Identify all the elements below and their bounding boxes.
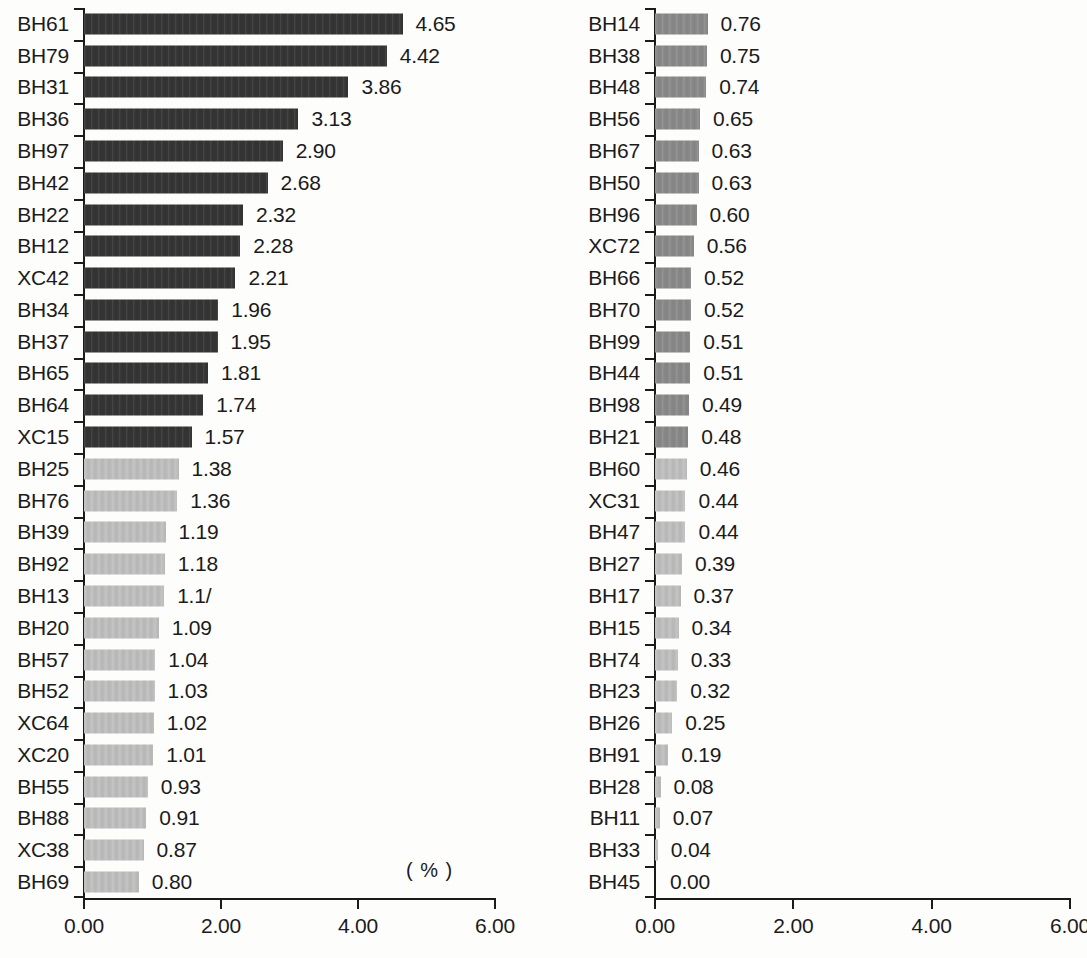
bar-category-label: BH99 [588, 330, 640, 354]
x-axis-tick [654, 898, 656, 909]
bar [84, 649, 155, 670]
x-axis-tick-label: 0.00 [64, 914, 104, 938]
bar-row: BH960.60 [655, 199, 1070, 231]
bar [84, 331, 218, 352]
bar-category-label: BH44 [588, 361, 640, 385]
bar-row: BH440.51 [655, 358, 1070, 390]
bar-row: XC310.44 [655, 485, 1070, 517]
bar-category-label: BH37 [17, 330, 69, 354]
x-axis-tick [792, 898, 794, 909]
bar-row: BH740.33 [655, 644, 1070, 676]
bar [84, 871, 139, 892]
bar [655, 172, 699, 193]
bar-category-label: BH20 [17, 616, 69, 640]
bar-row: XC720.56 [655, 230, 1070, 262]
bar [655, 268, 691, 289]
bar [84, 141, 283, 162]
x-axis-tick [220, 898, 222, 909]
bar-row: BH641.74 [84, 389, 495, 421]
bar [655, 109, 700, 130]
bar [84, 713, 154, 734]
x-axis-tick [1069, 898, 1071, 909]
bar [84, 45, 387, 66]
bar-category-label: BH67 [588, 139, 640, 163]
bar-value-label: 1.1/ [177, 584, 211, 608]
left-unit-label: ( % ) [406, 859, 453, 882]
bar-category-label: BH42 [17, 171, 69, 195]
bar [655, 681, 677, 702]
x-axis-tick-label: 4.00 [912, 914, 952, 938]
bar-value-label: 3.13 [311, 107, 351, 131]
bar [655, 840, 658, 861]
bar-value-label: 0.75 [720, 44, 760, 68]
bar-category-label: XC15 [17, 425, 69, 449]
bar [84, 554, 165, 575]
right-plot-area: BH140.76BH380.75BH480.74BH560.65BH670.63… [655, 8, 1070, 898]
bar [655, 236, 694, 257]
bar-value-label: 0.87 [157, 838, 197, 862]
bar-value-label: 0.07 [673, 806, 713, 830]
bar-row: BH980.49 [655, 389, 1070, 421]
bar-row: XC201.01 [84, 739, 495, 771]
bar [84, 268, 235, 289]
x-axis-tick [494, 898, 496, 909]
bar-value-label: 0.33 [691, 648, 731, 672]
bar-value-label: 1.19 [179, 520, 219, 544]
bar-row: BH330.04 [655, 834, 1070, 866]
bar-row: BH313.86 [84, 72, 495, 104]
bar-value-label: 0.51 [703, 330, 743, 354]
bar-category-label: BH66 [588, 266, 640, 290]
bar-row: BH210.48 [655, 421, 1070, 453]
bar-category-label: BH39 [17, 520, 69, 544]
bar-value-label: 2.68 [281, 171, 321, 195]
bar-row: BH761.36 [84, 485, 495, 517]
bar [655, 776, 661, 797]
bar [655, 331, 690, 352]
bar-row: BH550.93 [84, 771, 495, 803]
bar [655, 617, 679, 638]
bar-value-label: 2.21 [248, 266, 288, 290]
bar-value-label: 4.65 [416, 12, 456, 36]
bar-value-label: 1.01 [166, 743, 206, 767]
bar-value-label: 0.08 [674, 775, 714, 799]
x-axis-tick-label: 2.00 [201, 914, 241, 938]
bar-category-label: BH65 [17, 361, 69, 385]
bar-value-label: 1.57 [205, 425, 245, 449]
bar-row: BH110.07 [655, 803, 1070, 835]
bar-row: BH521.03 [84, 675, 495, 707]
bar-category-label: XC38 [17, 838, 69, 862]
bar-value-label: 0.80 [152, 870, 192, 894]
bar [84, 109, 298, 130]
bar-value-label: 2.28 [253, 234, 293, 258]
bar-value-label: 1.74 [216, 393, 256, 417]
bar-row: BH363.13 [84, 103, 495, 135]
bar-row: BH660.52 [655, 262, 1070, 294]
x-axis-tick-label: 4.00 [338, 914, 378, 938]
bar [84, 681, 155, 702]
bar-row: BH794.42 [84, 40, 495, 72]
bar [655, 522, 685, 543]
bar-category-label: BH55 [17, 775, 69, 799]
bar [84, 776, 148, 797]
bar-category-label: BH31 [17, 75, 69, 99]
bar-value-label: 1.09 [172, 616, 212, 640]
bar [655, 490, 685, 511]
bar-category-label: BH56 [588, 107, 640, 131]
bar-value-label: 1.03 [168, 679, 208, 703]
bar [84, 13, 403, 34]
bar [84, 585, 164, 606]
dual-bar-chart-figure: BH614.65BH794.42BH313.86BH363.13BH972.90… [0, 0, 1087, 958]
bar [655, 713, 672, 734]
bar-value-label: 0.52 [704, 298, 744, 322]
bar-category-label: BH48 [588, 75, 640, 99]
bar-category-label: BH34 [17, 298, 69, 322]
x-axis-tick-label: 6.00 [1050, 914, 1087, 938]
bar-value-label: 0.93 [161, 775, 201, 799]
bar-row: BH391.19 [84, 517, 495, 549]
bar-category-label: BH28 [588, 775, 640, 799]
bar-value-label: 0.44 [698, 520, 738, 544]
bar-row: BH480.74 [655, 72, 1070, 104]
bar [84, 490, 177, 511]
bar-row: BH341.96 [84, 294, 495, 326]
bar [655, 458, 687, 479]
